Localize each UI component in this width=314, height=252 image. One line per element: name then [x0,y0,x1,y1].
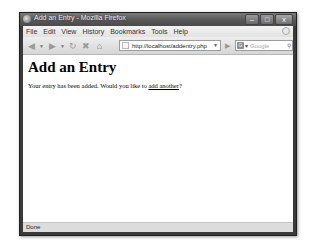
home-icon[interactable]: ⌂ [94,40,105,51]
search-engine-selector[interactable]: G▾ [236,42,250,49]
maximize-button[interactable]: □ [260,14,274,25]
menu-file[interactable]: File [26,28,37,35]
menu-history[interactable]: History [82,28,104,35]
browser-window: Add an Entry - Mozilla Firefox – □ x Fil… [19,12,297,236]
add-another-link[interactable]: add another [148,82,179,89]
menu-edit[interactable]: Edit [43,28,55,35]
search-box[interactable]: G▾ Google ⚲ [235,40,293,51]
close-button[interactable]: x [275,14,293,25]
stop-icon[interactable]: ✖ [81,40,92,51]
title-bar[interactable]: Add an Entry - Mozilla Firefox – □ x [20,13,296,26]
menu-view[interactable]: View [61,28,76,35]
go-button[interactable]: ▶ [223,41,232,50]
back-history-dropdown[interactable]: ▼ [39,43,44,49]
reload-icon[interactable]: ↻ [68,40,79,51]
menu-bar: File Edit View History Bookmarks Tools H… [23,26,293,37]
menu-bookmarks[interactable]: Bookmarks [110,28,145,35]
window-title: Add an Entry - Mozilla Firefox [34,14,126,21]
status-text: Done [26,224,40,230]
url-dropdown-icon[interactable]: ▼ [213,42,218,48]
firefox-icon [23,15,31,23]
menu-tools[interactable]: Tools [151,28,167,35]
url-text[interactable]: http://localhost/addentry.php [132,43,207,49]
window-controls: – □ x [245,14,293,25]
menu-help[interactable]: Help [174,28,188,35]
search-icon[interactable]: ⚲ [287,42,291,49]
page-title: Add an Entry [28,59,116,76]
navigation-toolbar: ◀ ▼ ▶ ▼ ↻ ✖ ⌂ http://localhost/addentry.… [23,37,293,55]
message-suffix: ? [179,82,182,89]
browser-client: File Edit View History Bookmarks Tools H… [23,26,293,232]
back-icon[interactable]: ◀ [26,40,37,51]
forward-history-dropdown[interactable]: ▼ [60,43,65,49]
search-input[interactable]: Google [250,43,269,49]
confirmation-message: Your entry has been added. Would you lik… [28,82,182,89]
throbber-icon [282,27,290,35]
page-icon [122,42,129,49]
message-text: Your entry has been added. Would you lik… [28,82,148,89]
forward-icon[interactable]: ▶ [47,40,58,51]
page-content: Add an Entry Your entry has been added. … [23,55,293,223]
url-bar[interactable]: http://localhost/addentry.php ▼ [119,40,221,51]
minimize-button[interactable]: – [245,14,259,25]
status-bar: Done [23,222,293,232]
google-icon: G [237,42,244,49]
